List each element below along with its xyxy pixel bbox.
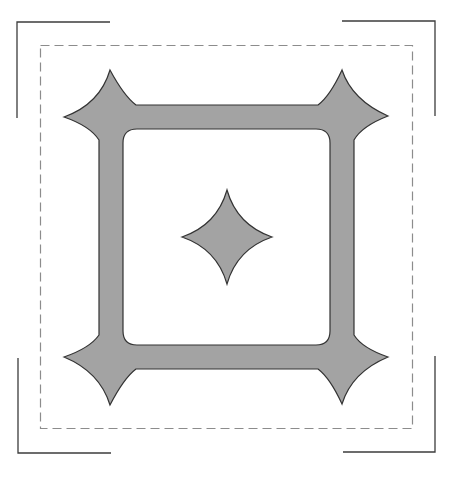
center-diamond xyxy=(182,190,272,284)
diagram-canvas xyxy=(0,0,454,484)
